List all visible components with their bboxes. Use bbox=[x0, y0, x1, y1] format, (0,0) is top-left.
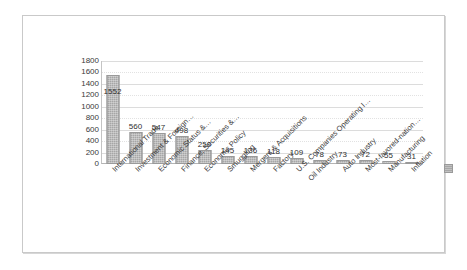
chart-screenshot: 180016001400120010008006004002000 155256… bbox=[0, 0, 467, 270]
y-axis-tick-label: 1000 bbox=[59, 103, 99, 111]
y-axis-tick-label: 0 bbox=[59, 160, 99, 168]
chart-object-frame: 180016001400120010008006004002000 155256… bbox=[22, 15, 445, 253]
y-axis-tick-label: 1800 bbox=[59, 57, 99, 65]
legend-swatch-icon bbox=[444, 164, 453, 173]
legend[interactable] bbox=[444, 164, 453, 173]
y-axis-tick-label: 1400 bbox=[59, 80, 99, 88]
bar-value-label: 560 bbox=[129, 123, 142, 131]
y-axis: 180016001400120010008006004002000 bbox=[59, 54, 99, 172]
bar-slot: 1552 bbox=[101, 61, 124, 164]
y-axis-tick-label: 200 bbox=[59, 149, 99, 157]
bar-value-label: 1552 bbox=[104, 88, 122, 96]
bars-layer: 15525605474982501451361181097873725531 bbox=[101, 61, 423, 164]
y-axis-tick-label: 800 bbox=[59, 114, 99, 122]
y-axis-tick-label: 1200 bbox=[59, 91, 99, 99]
y-axis-tick-label: 1600 bbox=[59, 68, 99, 76]
y-axis-tick-label: 600 bbox=[59, 126, 99, 134]
y-axis-tick-label: 400 bbox=[59, 137, 99, 145]
